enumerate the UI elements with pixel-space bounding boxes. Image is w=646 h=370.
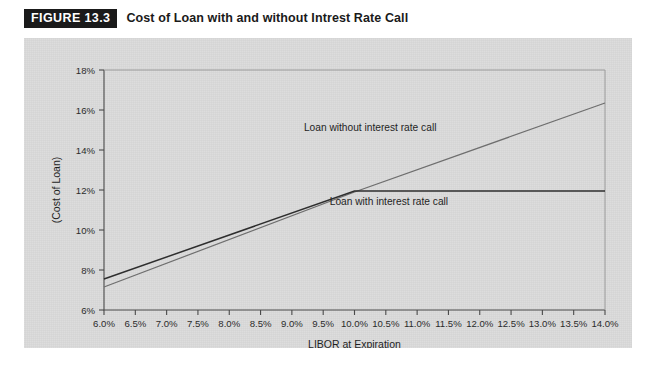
x-tick-label: 13.0% [529, 318, 557, 329]
x-tick-label: 13.5% [560, 318, 588, 329]
axes-group [104, 70, 605, 310]
x-tick-label: 8.0% [218, 318, 240, 329]
figure-root: FIGURE 13.3 Cost of Loan with and withou… [0, 0, 646, 370]
x-tick-label: 9.5% [312, 318, 334, 329]
figure-header: FIGURE 13.3 Cost of Loan with and withou… [24, 8, 408, 28]
x-tick-label: 14.0% [591, 318, 619, 329]
y-tick-label: 18% [76, 65, 96, 76]
x-tick-label: 7.0% [156, 318, 178, 329]
figure-title: Cost of Loan with and without Intrest Ra… [126, 11, 408, 25]
x-tick-label: 12.0% [466, 318, 494, 329]
x-tick-label: 9.0% [281, 318, 303, 329]
x-tick-label: 12.5% [497, 318, 525, 329]
y-tick-label: 14% [76, 145, 96, 156]
x-tick-label: 7.5% [187, 318, 209, 329]
y-tick-label: 10% [76, 225, 96, 236]
x-tick-label: 11.0% [404, 318, 431, 329]
line-chart: 6%8%10%12%14%16%18% 6.0%6.5%7.0%7.5%8.0%… [24, 38, 632, 348]
y-tick-label: 16% [76, 105, 96, 116]
x-tick-label: 6.5% [124, 318, 146, 329]
x-axis-title: LIBOR at Expiration [308, 338, 401, 348]
y-axis-tick-labels: 6%8%10%12%14%16%18% [76, 65, 96, 316]
series-annotations: Loan without interest rate callLoan with… [304, 122, 448, 207]
annotation-loan-without-call: Loan without interest rate call [304, 122, 437, 133]
x-tick-label: 8.5% [250, 318, 272, 329]
x-tick-label: 11.5% [435, 318, 462, 329]
annotation-loan-with-call: Loan with interest rate call [330, 196, 448, 207]
y-tick-label: 12% [76, 185, 96, 196]
y-tick-label: 8% [81, 265, 95, 276]
x-tick-label: 10.5% [372, 318, 400, 329]
figure-number-badge: FIGURE 13.3 [24, 9, 117, 28]
y-tick-label: 6% [81, 305, 95, 316]
y-axis-title: (Cost of Loan) [50, 157, 62, 224]
x-tick-label: 10.0% [341, 318, 369, 329]
x-axis-tick-labels: 6.0%6.5%7.0%7.5%8.0%8.5%9.0%9.5%10.0%10.… [93, 318, 619, 329]
x-tick-label: 6.0% [93, 318, 115, 329]
chart-panel: 6%8%10%12%14%16%18% 6.0%6.5%7.0%7.5%8.0%… [24, 38, 632, 348]
